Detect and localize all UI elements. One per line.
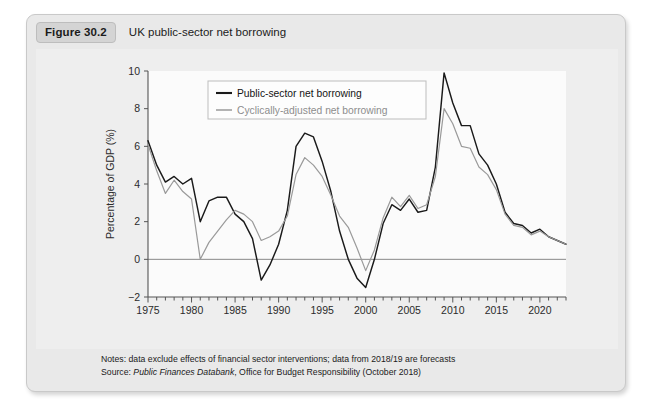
y-axis-tick-label: 0 [134, 253, 140, 265]
x-axis-tick-label: 2020 [528, 304, 552, 316]
y-axis-tick-label: 6 [134, 140, 140, 152]
y-axis-tick-label: −2 [128, 291, 140, 303]
chart-plot-panel: −202468101975198019851990199520002005201… [36, 49, 618, 349]
figure-card: Figure 30.2 UK public-sector net borrowi… [26, 14, 626, 392]
x-axis-tick-label: 1990 [267, 304, 291, 316]
source-title: Public Finances Databank [133, 367, 234, 377]
x-axis-tick-label: 2015 [485, 304, 509, 316]
source-rest: , Office for Budget Responsibility (Octo… [234, 367, 421, 377]
figure-footer: Notes: data exclude effects of financial… [27, 353, 625, 378]
legend-label-2: Cyclically-adjusted net borrowing [237, 105, 388, 116]
figure-number-badge: Figure 30.2 [36, 22, 116, 43]
y-axis-tick-label: 8 [134, 102, 140, 114]
x-axis-tick-label: 1995 [310, 304, 334, 316]
x-axis-tick-label: 1985 [223, 304, 247, 316]
x-axis-tick-label: 1980 [180, 304, 204, 316]
x-axis-tick-label: 2000 [354, 304, 378, 316]
source-prefix: Source: [101, 367, 133, 377]
y-axis-title: Percentage of GDP (%) [104, 129, 116, 239]
y-axis-tick-label: 4 [134, 178, 140, 190]
y-axis-tick-label: 2 [134, 215, 140, 227]
x-axis-tick-label: 1975 [136, 304, 160, 316]
y-axis-tick-label: 10 [128, 65, 140, 77]
figure-notes: Notes: data exclude effects of financial… [101, 353, 625, 366]
x-axis-tick-label: 2010 [441, 304, 465, 316]
figure-header: Figure 30.2 UK public-sector net borrowi… [27, 15, 625, 49]
figure-caption: UK public-sector net borrowing [129, 26, 286, 38]
line-chart: −202468101975198019851990199520002005201… [36, 49, 618, 349]
x-axis-tick-label: 2005 [398, 304, 422, 316]
legend-label-1: Public-sector net borrowing [237, 88, 362, 99]
figure-source: Source: Public Finances Databank, Office… [101, 366, 625, 379]
